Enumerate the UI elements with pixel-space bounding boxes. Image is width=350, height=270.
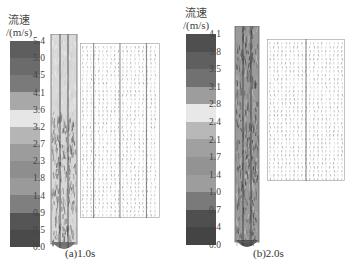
legend-b-title-line1: 流速 xyxy=(185,7,209,19)
panel-a-velocity-vector-field xyxy=(80,43,160,218)
legend-tick-label: 1.8 xyxy=(33,173,45,183)
legend-tick-label: 1.0 xyxy=(209,187,221,197)
panel-a-velocity-contour-column xyxy=(49,34,79,254)
legend-tick-label: 3.6 xyxy=(33,105,45,115)
legend-tick-label: 4.1 xyxy=(33,88,45,98)
legend-tick-label: 0.0 xyxy=(33,242,45,252)
panel-b-velocity-vector-field xyxy=(267,39,345,181)
legend-tick-label: 2.8 xyxy=(209,99,221,109)
legend-a-title: 流速 /(m/s) xyxy=(8,14,32,38)
vector-arrows xyxy=(82,46,156,217)
legend-tick-label: 2.7 xyxy=(33,139,45,149)
legend-tick-label: 4.5 xyxy=(33,70,45,80)
legend-tick-label: 0.5 xyxy=(33,225,45,235)
legend-tick-label: 3.1 xyxy=(209,82,221,92)
legend-tick-label: 3.8 xyxy=(209,47,221,57)
panel-b-caption: (b)2.0s xyxy=(253,247,284,259)
legend-b-title-line2: /(m/s) xyxy=(183,19,209,31)
legend-tick-label: 0.7 xyxy=(209,205,221,215)
legend-tick-label: 2.4 xyxy=(209,117,221,127)
panel-a-caption: (a)1.0s xyxy=(65,247,95,259)
legend-tick-label: 5.0 xyxy=(33,53,45,63)
legend-tick-label: 0.9 xyxy=(33,208,45,218)
legend-tick-label: 0.0 xyxy=(209,240,221,250)
legend-tick-label: 0.4 xyxy=(209,222,221,232)
legend-tick-label: 2.3 xyxy=(33,156,45,166)
legend-tick-label: 5.4 xyxy=(33,36,45,46)
panel-b-velocity-contour-column xyxy=(233,26,261,252)
contour-texture xyxy=(235,26,259,247)
legend-tick-label: 4.1 xyxy=(209,29,221,39)
contour-texture xyxy=(51,34,77,249)
legend-tick-label: 1.4 xyxy=(209,170,221,180)
legend-a-title-line2: /(m/s) xyxy=(6,26,32,38)
legend-b-title: 流速 /(m/s) xyxy=(185,7,209,31)
legend-tick-label: 2.1 xyxy=(209,135,221,145)
legend-b-ticks: 4.13.83.53.12.82.42.11.71.41.00.70.40.0 xyxy=(209,29,225,250)
legend-a-ticks: 5.45.04.54.13.63.22.72.31.81.40.90.50.0 xyxy=(33,36,49,252)
legend-a-title-line1: 流速 xyxy=(8,14,32,26)
legend-tick-label: 3.2 xyxy=(33,122,45,132)
legend-tick-label: 1.7 xyxy=(209,152,221,162)
legend-tick-label: 3.5 xyxy=(209,64,221,74)
legend-tick-label: 1.4 xyxy=(33,191,45,201)
